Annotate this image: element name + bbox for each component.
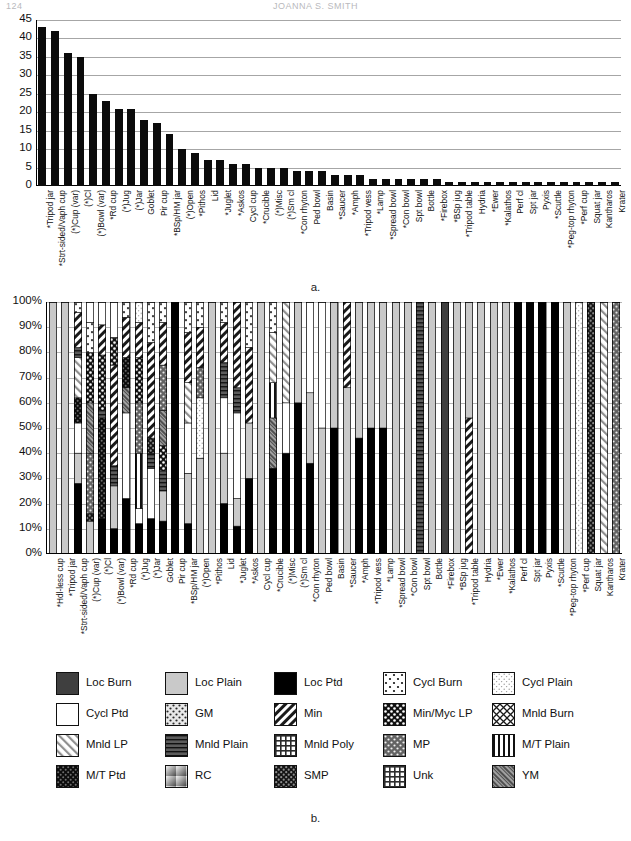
chart-b-stacked-bar (465, 302, 473, 554)
chart-b-y-tick: 20% (19, 497, 42, 507)
chart-a-x-tick: Pir cup (160, 190, 168, 216)
chart-b-x-tick: *Tripod table (471, 558, 479, 605)
chart-a-bar (573, 182, 581, 186)
chart-a-x-tick: *Amph (351, 190, 359, 215)
chart-a-y-axis (36, 20, 37, 186)
chart-a-x-tick: (*)Misc (275, 190, 283, 216)
chart-b-y-tick: 90% (19, 320, 42, 330)
chart-a-x-tick: *Ewer (491, 190, 499, 212)
legend-swatch-mnld_plain (165, 734, 188, 757)
chart-b-x-tick: *Kalathos (508, 558, 516, 594)
chart-b-stacked-bar (269, 302, 277, 554)
chart-b-x-tick: (*)Cup (var) (92, 558, 100, 602)
chart-a-x-tick: Lid (211, 190, 219, 201)
chart-a-x-tick: *Strt-sided/Vaph cup (58, 190, 66, 266)
chart-b-x-tick: (*)Jug (141, 558, 149, 580)
gridline (36, 149, 621, 150)
chart-b-x-tick: (*)Sm cl (300, 558, 308, 588)
chart-b-stacked-bar (551, 302, 559, 554)
chart-b-stacked-bar (98, 302, 106, 554)
legend-swatch-mnld_burn (492, 703, 515, 726)
chart-b-stacked-bar (612, 302, 620, 554)
chart-a-bar (471, 182, 479, 186)
chart-a-bar (382, 179, 390, 186)
chart-a-y-tick: 15 (19, 124, 32, 134)
chart-a-y-tick: 5 (26, 161, 32, 171)
chart-a-y-axis-labels: 051015202530354045 (0, 18, 32, 188)
chart-b-x-tick: Perf cl (520, 558, 528, 582)
legend-label: Min/Myc LP (413, 707, 473, 719)
legend-swatch-unk (383, 765, 406, 788)
chart-b-x-tick: Spt bowl (423, 558, 431, 590)
chart-a-bar (420, 179, 428, 186)
legend-swatch-rc (165, 765, 188, 788)
chart-a-x-tick: *Perf cup (580, 190, 588, 224)
chart-b-x-tick: *Spread bowl (398, 558, 406, 608)
chart-a-x-tick: *Scuttle (554, 190, 562, 219)
chart-a-x-tick: *Spread bowl (389, 190, 397, 240)
chart-b-stacked-bar (171, 302, 179, 554)
figure-caption-a: a. (0, 281, 631, 293)
chart-b-x-tick: Cycl cup (263, 558, 271, 590)
chart-a-bar (356, 175, 364, 186)
gridline (36, 57, 621, 58)
gridline (36, 38, 621, 39)
legend-label: Cycl Ptd (86, 707, 128, 719)
chart-a-x-tick: *Con rhyton (300, 190, 308, 234)
legend-label: Loc Ptd (304, 676, 343, 688)
chart-a-x-tick: *BSp jug (453, 190, 461, 223)
chart-b-stacked-bar (343, 302, 351, 554)
legend-label: YM (522, 769, 539, 781)
chart-b-x-tick: (*)Misc (288, 558, 296, 584)
chart-a-bar (344, 175, 352, 186)
chart-a-bar (51, 31, 59, 186)
chart-a-x-tick: *Rd cup (109, 190, 117, 220)
chart-a-bar (484, 182, 492, 186)
chart-b-stacked-bar (526, 302, 534, 554)
chart-b-stacked-bar (490, 302, 498, 554)
chart-b-x-tick: *Pithos (215, 558, 223, 585)
chart-a-bar (522, 182, 530, 186)
chart-b-x-tick: *Peg-top rhyton (569, 558, 577, 616)
chart-b-x-tick: *Askos (251, 558, 259, 584)
chart-b-x-tick: Goblet (166, 558, 174, 583)
chart-b-x-tick: Spt jar (533, 558, 541, 582)
gridline (36, 168, 621, 169)
legend-swatch-mnld_lp (56, 734, 79, 757)
chart-b-x-tick: Lid (227, 558, 235, 569)
chart-a-bar (89, 94, 97, 186)
chart-a-y-tick: 10 (19, 142, 32, 152)
legend-label: Cycl Plain (522, 676, 573, 688)
chart-b-stacked-bar (49, 302, 57, 554)
chart-b-x-tick: *Firebox (447, 558, 455, 589)
chart-a-x-tick: Cycl cup (249, 190, 257, 222)
chart-b-stacked-bar (233, 302, 241, 554)
legend-label: Mnld LP (86, 738, 128, 750)
chart-a-bar (77, 57, 85, 186)
chart-a-bar (534, 182, 542, 186)
chart-a-x-tick: Basin (326, 190, 334, 211)
chart-b-stacked-bar (61, 302, 69, 554)
chart-b-x-tick: *Juglet (239, 558, 247, 584)
chart-a-x-tick: *Askos (237, 190, 245, 216)
chart-b-stacked-bar (159, 302, 167, 554)
chart-a-bar (255, 168, 263, 186)
chart-a-bar (140, 120, 148, 186)
chart-b-x-tick: *Tripod jar (68, 558, 76, 596)
chart-a-x-tick: Krater (618, 190, 626, 213)
chart-b-stacked-bar (502, 302, 510, 554)
chart-a-bar (166, 134, 174, 186)
chart-b-stacked-bar (122, 302, 130, 554)
legend-swatch-mt_ptd (56, 765, 79, 788)
chart-b-stacked-bar (196, 302, 204, 554)
chart-b-x-tick: Bottle (435, 558, 443, 579)
gridline (36, 20, 621, 21)
chart-b-stacked-bar (294, 302, 302, 554)
chart-b-x-tick: (*)Cl (104, 558, 112, 575)
chart-a-x-tick: *Tripod vess (364, 190, 372, 236)
chart-a-bar (191, 153, 199, 186)
chart-a-x-tick: *Tripod table (465, 190, 473, 237)
chart-b-stacked-bar (220, 302, 228, 554)
chart-a-plot-area (36, 20, 621, 186)
legend-swatch-cycl_burn (383, 672, 406, 695)
